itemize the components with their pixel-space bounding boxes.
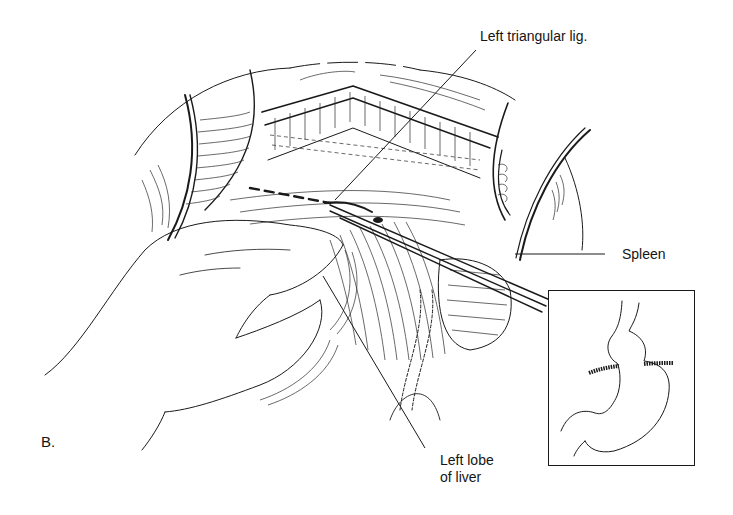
right-retractor-flap [493, 103, 510, 220]
surgeon-hand [45, 220, 357, 450]
left-retractor-flap [142, 70, 254, 240]
panel-label: B. [41, 433, 55, 450]
label-spleen: Spleen [622, 246, 666, 263]
far-right-retractor [516, 128, 590, 260]
leader-line-left-lobe [323, 276, 425, 448]
stomach-and-liver-region [230, 191, 511, 420]
label-left-lobe-line1: Left lobe [440, 452, 494, 469]
inset-stomach-diagram [548, 290, 695, 466]
label-left-triangular-lig: Left triangular lig. [480, 28, 587, 45]
upper-retractor [262, 71, 498, 178]
leader-line-left-triangular-lig [335, 50, 476, 200]
stomach-outline-icon [549, 291, 694, 465]
incision-dashed-line [250, 188, 330, 203]
label-left-lobe-line2: of liver [440, 469, 481, 486]
